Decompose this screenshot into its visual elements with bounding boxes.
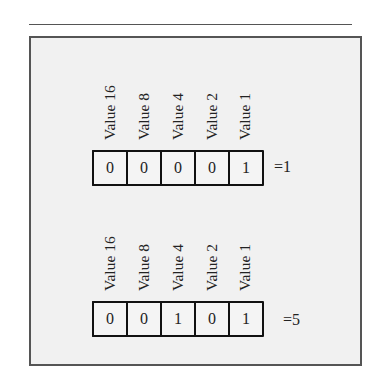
- place-label: Value 16: [93, 64, 126, 140]
- place-label-text: Value 8: [136, 93, 152, 140]
- place-value-labels: Value 16 Value 8 Value 4 Value 2 Value 1: [93, 215, 261, 291]
- place-label: Value 8: [127, 215, 160, 291]
- place-label: Value 4: [161, 64, 194, 140]
- place-label-text: Value 2: [204, 244, 220, 291]
- place-label: Value 8: [127, 64, 160, 140]
- bit-cell: 0: [94, 152, 128, 184]
- place-label-text: Value 16: [102, 236, 118, 291]
- place-label-text: Value 1: [237, 93, 253, 140]
- decimal-result: =1: [274, 158, 291, 176]
- bit-cell: 0: [94, 303, 128, 335]
- place-label: Value 2: [195, 215, 228, 291]
- place-label-text: Value 4: [170, 93, 186, 140]
- bit-cell: 1: [162, 303, 196, 335]
- bit-cell: 0: [128, 303, 162, 335]
- bit-cells: 0 0 1 0 1: [92, 301, 264, 337]
- bit-cells: 0 0 0 0 1: [92, 150, 264, 186]
- decimal-result: =5: [283, 311, 300, 329]
- bit-cell: 0: [196, 152, 230, 184]
- place-label-text: Value 16: [102, 85, 118, 140]
- place-label-text: Value 2: [204, 93, 220, 140]
- place-label: Value 2: [195, 64, 228, 140]
- bit-cell: 1: [230, 152, 264, 184]
- place-label: Value 4: [161, 215, 194, 291]
- place-label: Value 1: [228, 215, 261, 291]
- binary-diagram-frame: Value 16 Value 8 Value 4 Value 2 Value 1…: [29, 36, 362, 366]
- place-value-labels: Value 16 Value 8 Value 4 Value 2 Value 1: [93, 64, 261, 140]
- top-divider: [29, 24, 352, 25]
- place-label: Value 16: [93, 215, 126, 291]
- place-label: Value 1: [228, 64, 261, 140]
- bit-cell: 0: [128, 152, 162, 184]
- place-label-text: Value 1: [237, 244, 253, 291]
- bit-cell: 0: [196, 303, 230, 335]
- place-label-text: Value 8: [136, 244, 152, 291]
- place-label-text: Value 4: [170, 244, 186, 291]
- bit-cell: 1: [230, 303, 264, 335]
- bit-cell: 0: [162, 152, 196, 184]
